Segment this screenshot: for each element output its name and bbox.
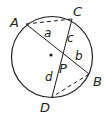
segment-label-c: c xyxy=(67,31,74,45)
point-label-b: B xyxy=(93,74,102,89)
segment-label-a: a xyxy=(44,26,51,40)
segment-label-b: b xyxy=(75,49,83,63)
point-label-a: A xyxy=(9,15,19,30)
point-label-d: D xyxy=(40,100,50,115)
point-label-p: P xyxy=(59,61,67,76)
point-label-c: C xyxy=(73,4,83,19)
chord-diagram: A C B D P a c b d xyxy=(0,0,104,115)
segment-label-d: d xyxy=(45,70,53,84)
center-dot xyxy=(49,53,52,56)
